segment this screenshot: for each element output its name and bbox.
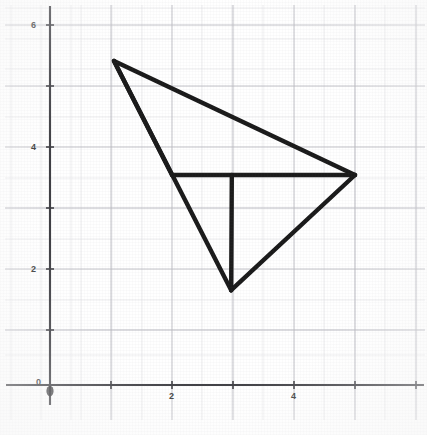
edge-bottom-right bbox=[231, 175, 355, 290]
ytick-label-6: 6 bbox=[31, 21, 36, 30]
plot-figure: 6 4 2 0 2 4 bbox=[0, 0, 427, 435]
edge-apex-right bbox=[114, 61, 355, 175]
origin-marker bbox=[46, 386, 53, 396]
major-gridlines bbox=[5, 5, 425, 420]
ytick-label-0: 0 bbox=[36, 378, 41, 387]
xtick-label-4: 4 bbox=[291, 392, 296, 401]
edge-center-bottom bbox=[231, 175, 232, 290]
axis-lines bbox=[6, 6, 424, 405]
ytick-label-4: 4 bbox=[31, 143, 36, 152]
ytick-label-2: 2 bbox=[31, 265, 36, 274]
tetrahedron-wireframe-plot bbox=[0, 0, 427, 435]
minor-gridlines bbox=[5, 5, 425, 420]
xtick-label-2: 2 bbox=[169, 392, 174, 401]
tetrahedron-edges bbox=[114, 61, 355, 290]
